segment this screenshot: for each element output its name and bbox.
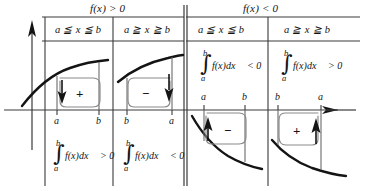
group-header-title-left: f(x) > 0 [90,3,125,14]
cell-2-sign: − [142,87,149,100]
column-condition-4: a ≧ x ≧ b [284,25,330,36]
cell-1-graphic [22,60,108,115]
cell-3-integral-relation: < 0 [247,60,261,71]
column-condition-3: a ≦ x ≦ b [198,25,244,36]
cell-4-integral-body: f(x)dx [293,60,316,71]
cell-1-integral-body: f(x)dx [65,150,88,161]
cell-1-integral-lower-limit: a [54,163,58,173]
cell-4-tick-label-right: a [318,92,323,102]
cell-3-integral: b ∫ a f(x)dx < 0 [199,48,265,82]
cell-3-sign: − [224,124,231,137]
column-condition-1: a ≦ x ≦ b [55,25,101,36]
group-header-title-right: f(x) < 0 [243,3,278,14]
cell-4-integral-symbol: ∫ [281,53,292,75]
cell-1-curve [22,60,108,106]
integral-sign-table-figure: f(x) > 0 f(x) < 0 a ≦ x ≦ b a ≧ x ≧ b a … [0,0,368,191]
cell-2-integral-relation: < 0 [170,150,184,161]
cell-2-integral-symbol: ∫ [123,143,134,165]
cell-4-graphic [272,105,346,176]
cell-3-integral-lower-limit: a [201,73,205,83]
column-condition-2: a ≧ x ≧ b [124,25,170,36]
cell-2-integral-body: f(x)dx [135,150,158,161]
cell-3-integral-body: f(x)dx [212,60,235,71]
cell-3-tick-label-left: a [201,92,206,102]
cell-2-tick-label-right: a [169,116,174,126]
cell-2-integral: b ∫ a f(x)dx < 0 [122,138,184,172]
cell-3-tick-label-right: b [242,92,247,102]
cell-4-integral-lower-limit: a [282,73,286,83]
cell-1-integral-symbol: ∫ [53,143,64,165]
cell-4-integral-relation: > 0 [328,60,342,71]
cell-1-tick-label-left: a [54,116,59,126]
cell-4-sign: + [293,124,300,137]
cell-1-integral: b ∫ a f(x)dx > 0 [52,138,114,172]
cell-2-graphic [118,55,183,115]
cell-3-integral-symbol: ∫ [200,53,211,75]
cell-1-sign: + [76,87,83,100]
cell-2-integral-lower-limit: a [124,163,128,173]
cell-1-tick-label-right: b [96,116,101,126]
cell-2-tick-label-left: b [124,116,129,126]
cell-1-integral-relation: > 0 [100,150,114,161]
cell-4-tick-label-left: b [275,92,280,102]
cell-4-integral: b ∫ a f(x)dx > 0 [280,48,346,82]
